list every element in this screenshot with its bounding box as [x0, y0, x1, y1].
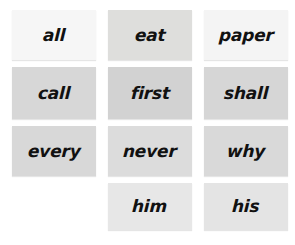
word-card-label: call	[37, 85, 70, 102]
flashcard-board: alleatpapercallfirstshalleveryneverwhyhi…	[0, 0, 295, 245]
word-card-label: paper	[218, 27, 274, 44]
word-card[interactable]: him	[108, 183, 192, 230]
word-card[interactable]: every	[12, 126, 96, 176]
word-card-label: why	[226, 143, 265, 160]
word-card[interactable]: eat	[108, 10, 192, 60]
word-card[interactable]: shall	[204, 67, 288, 119]
word-card[interactable]: all	[12, 10, 96, 60]
word-card-label: all	[42, 27, 65, 44]
word-card-label: first	[130, 85, 170, 102]
word-card[interactable]: call	[12, 67, 96, 119]
word-card-label: him	[132, 198, 168, 215]
word-card[interactable]: first	[108, 67, 192, 119]
word-card[interactable]: paper	[204, 10, 288, 60]
word-card[interactable]: never	[108, 126, 192, 176]
word-card[interactable]: why	[204, 126, 288, 176]
word-card-label: eat	[134, 27, 165, 44]
word-card-label: never	[123, 143, 178, 160]
word-card-label: every	[27, 143, 81, 160]
word-card-label: shall	[223, 85, 268, 102]
empty-card-slot	[12, 183, 96, 230]
word-card-label: his	[232, 198, 260, 215]
word-card[interactable]: his	[204, 183, 288, 230]
